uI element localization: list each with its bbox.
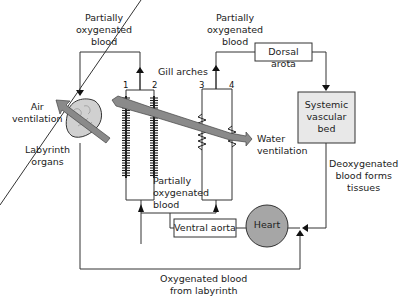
systemic-vascular-bed-box: Systemic vascular bed: [298, 99, 355, 135]
text-line: Labyrinth: [25, 144, 70, 156]
text-line: Deoxygenated: [329, 158, 398, 170]
text-line: oxygenated: [207, 24, 263, 36]
arch-number-4: 4: [229, 80, 234, 90]
label-partial-blood-top-right: Partially oxygenated blood: [207, 12, 263, 48]
arch-number-3: 3: [199, 80, 204, 90]
label-air-ventilation: Air ventilation: [12, 101, 63, 125]
text-line: blood forms: [329, 170, 398, 182]
text-line: Oxygenated blood: [160, 273, 247, 285]
text-line: ventilation: [257, 145, 308, 157]
dorsal-aorta-box: Dorsal arota: [255, 46, 312, 70]
label-partial-blood-top-left: Partially oxygenated blood: [76, 12, 132, 48]
text-line: Air: [12, 101, 63, 113]
text-line: organs: [25, 156, 70, 168]
text-line: vascular: [298, 111, 355, 123]
text-line: from labyrinth: [160, 285, 247, 297]
text-line: tissues: [329, 182, 398, 194]
heart: Heart: [246, 219, 288, 231]
label-water-ventilation: Water ventilation: [257, 133, 308, 157]
arch-number-1: 1: [123, 80, 128, 90]
text-line: oxygenated: [76, 24, 132, 36]
text-line: blood: [76, 36, 132, 48]
text-line: blood: [153, 199, 209, 211]
text-line: Partially: [153, 175, 209, 187]
water-ventilation-arrow: [112, 96, 252, 146]
text-line: Partially: [207, 12, 263, 24]
label-gill-arches: Gill arches: [158, 66, 208, 78]
arch-number-2: 2: [152, 80, 157, 90]
text-line: bed: [298, 123, 355, 135]
label-deoxygenated: Deoxygenated blood forms tissues: [329, 158, 398, 194]
text-line: ventilation: [12, 113, 63, 125]
label-partial-blood-bottom: Partially oxygenated blood: [153, 175, 209, 211]
label-labyrinth-organs: Labyrinth organs: [25, 144, 70, 168]
text-line: Partially: [76, 12, 132, 24]
label-oxygenated-from-labyrinth: Oxygenated blood from labyrinth: [160, 273, 247, 297]
text-line: oxygenated: [153, 187, 209, 199]
partial-blood-to-labyrinth-line: [80, 52, 140, 93]
ventral-aorta-box: Ventral aorta: [174, 222, 236, 234]
text-line: Systemic: [298, 99, 355, 111]
